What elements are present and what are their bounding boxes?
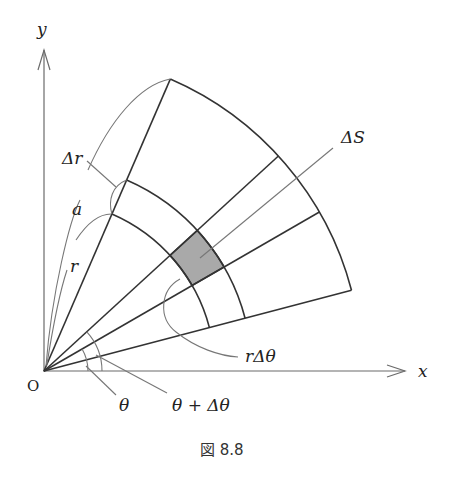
labels: y x O Δr a r ΔS rΔθ θ θ + Δθ 図 8.8 [27, 19, 428, 459]
a-label: a [72, 199, 82, 219]
x-axis-label: x [418, 361, 428, 381]
r-label: r [70, 256, 79, 276]
circular-arcs [112, 79, 352, 328]
ray-theta [44, 212, 319, 371]
delta-s-leader [200, 148, 333, 258]
r-delta-theta-label: rΔθ [245, 346, 276, 366]
delta-s-label: ΔS [340, 127, 365, 147]
figure-caption: 図 8.8 [200, 441, 244, 459]
axes [38, 50, 405, 377]
ray-outer-top [44, 79, 170, 371]
theta-plus-delta-theta-angle-arc [87, 332, 102, 371]
angle-markers [82, 332, 102, 371]
y-axis-label: y [36, 19, 47, 39]
theta-leader [86, 366, 116, 395]
delta-s-shaded-region [170, 230, 224, 285]
r-delta-theta-brace-curve [164, 279, 238, 357]
delta-r-leader [87, 161, 116, 187]
delta-r-label: Δr [61, 148, 83, 168]
theta-plus-delta-theta-label: θ + Δθ [172, 395, 230, 415]
radial-rays [44, 79, 352, 371]
polar-area-element-diagram: y x O Δr a r ΔS rΔθ θ θ + Δθ 図 8.8 [0, 0, 454, 482]
theta-label: θ [119, 395, 129, 415]
origin-label: O [27, 377, 39, 395]
theta-plus-delta-theta-leader [96, 355, 167, 393]
ray-outer-bottom [44, 290, 352, 371]
ray-theta-plus-delta-theta [44, 156, 278, 371]
